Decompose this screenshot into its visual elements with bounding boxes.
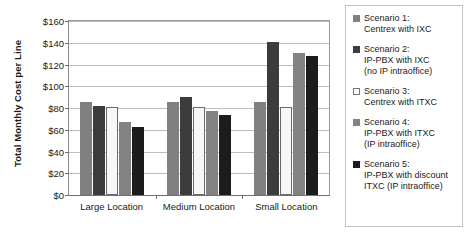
bar xyxy=(180,97,192,195)
x-axis-category-label: Small Location xyxy=(243,201,330,212)
x-axis-tick-mark xyxy=(156,195,157,199)
legend-label: Scenario 5:IP-PBX with discountITXC (IP … xyxy=(364,159,448,192)
bar xyxy=(254,102,266,196)
legend-item[interactable]: Scenario 2:IP-PBX with IXC(no IP intraof… xyxy=(353,44,457,77)
y-axis-tick-label: $100 xyxy=(43,81,64,92)
bar-group xyxy=(69,21,156,195)
bar xyxy=(306,56,318,195)
y-axis-tick-label: $20 xyxy=(48,168,64,179)
chart-legend: Scenario 1:Centrex with IXCScenario 2:IP… xyxy=(345,5,463,227)
bar xyxy=(167,102,179,196)
y-axis-tick-label: $140 xyxy=(43,37,64,48)
bar-groups xyxy=(69,21,329,195)
legend-swatch-icon xyxy=(353,88,360,95)
bar-group xyxy=(242,21,329,195)
bar-chart-figure: Total Monthly Cost per Line $0$20$40$60$… xyxy=(0,0,469,240)
bar xyxy=(119,122,131,195)
y-axis-tick-label: $160 xyxy=(43,16,64,27)
y-axis-tick-label: $80 xyxy=(48,103,64,114)
bar xyxy=(106,107,118,195)
bar xyxy=(80,102,92,196)
y-axis-tick-label: $60 xyxy=(48,124,64,135)
legend-swatch-icon xyxy=(353,119,360,126)
legend-label: Scenario 2:IP-PBX with IXC(no IP intraof… xyxy=(364,44,432,77)
bar xyxy=(132,127,144,195)
y-axis-tick-label: $40 xyxy=(48,146,64,157)
x-axis-category-label: Medium Location xyxy=(155,201,242,212)
legend-item[interactable]: Scenario 4:IP-PBX with ITXC(IP intraoffi… xyxy=(353,117,457,150)
bar xyxy=(206,111,218,195)
bar-group xyxy=(156,21,243,195)
bar xyxy=(280,107,292,195)
legend-label: Scenario 1:Centrex with IXC xyxy=(364,13,432,35)
y-axis-title: Total Monthly Cost per Line xyxy=(12,9,23,199)
bar xyxy=(267,42,279,195)
gridline xyxy=(69,195,329,196)
plot-area: $0$20$40$60$80$100$120$140$160 xyxy=(68,20,330,196)
bar xyxy=(93,106,105,195)
legend-item[interactable]: Scenario 3:Centrex with ITXC xyxy=(353,86,457,108)
legend-swatch-icon xyxy=(353,15,360,22)
legend-label: Scenario 3:Centrex with ITXC xyxy=(364,86,437,108)
legend-item[interactable]: Scenario 1:Centrex with IXC xyxy=(353,13,457,35)
bar xyxy=(293,53,305,195)
x-axis-tick-mark xyxy=(242,195,243,199)
y-axis-tick-mark xyxy=(65,195,69,196)
x-axis-category-label: Large Location xyxy=(68,201,155,212)
bar xyxy=(219,115,231,195)
legend-swatch-icon xyxy=(353,46,360,53)
x-axis-labels: Large LocationMedium LocationSmall Locat… xyxy=(68,201,330,212)
legend-item[interactable]: Scenario 5:IP-PBX with discountITXC (IP … xyxy=(353,159,457,192)
legend-label: Scenario 4:IP-PBX with ITXC(IP intraoffi… xyxy=(364,117,435,150)
y-axis-tick-label: $0 xyxy=(53,190,64,201)
y-axis-tick-label: $120 xyxy=(43,59,64,70)
bar xyxy=(193,107,205,195)
legend-swatch-icon xyxy=(353,161,360,168)
